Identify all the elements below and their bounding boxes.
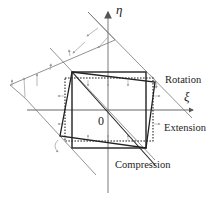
- extension-label: Extension: [164, 123, 206, 134]
- compression-label: Compression: [115, 160, 170, 171]
- rotation-label: Rotation: [165, 75, 201, 86]
- guide-lines: [10, 12, 192, 175]
- xi-label: ξ: [184, 90, 190, 103]
- extended-square: [65, 78, 153, 141]
- origin-label: 0: [98, 115, 104, 127]
- diagonal-line: [72, 72, 155, 165]
- traction-arrows: [12, 28, 108, 97]
- eta-label: η: [116, 3, 122, 16]
